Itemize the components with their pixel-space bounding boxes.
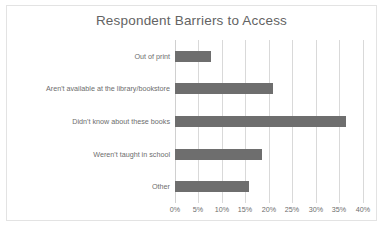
bar xyxy=(175,51,211,62)
tick-label: 10% xyxy=(215,205,229,214)
bar xyxy=(175,181,249,192)
tick-label: 30% xyxy=(309,205,323,214)
category-label: Other xyxy=(152,181,170,192)
category-label: Out of print xyxy=(134,51,170,62)
bar xyxy=(175,83,273,94)
bar xyxy=(175,116,346,127)
category-label: Aren't available at the library/bookstor… xyxy=(46,83,170,94)
tick-label: 25% xyxy=(285,205,299,214)
tick-label: 0% xyxy=(170,205,180,214)
category-axis-labels: Out of printAren't available at the libr… xyxy=(7,40,170,203)
bar xyxy=(175,149,262,160)
tick-label: 20% xyxy=(262,205,276,214)
chart-title: Respondent Barriers to Access xyxy=(7,13,376,28)
tick-label: 5% xyxy=(193,205,203,214)
value-axis-tick-labels: 0%5%10%15%20%25%30%35%40% xyxy=(175,205,377,219)
chart-frame: Respondent Barriers to Access Out of pri… xyxy=(6,5,377,221)
plot-area xyxy=(175,40,377,203)
category-label: Didn't know about these books xyxy=(72,116,170,127)
tick-label: 35% xyxy=(332,205,346,214)
category-label: Weren't taught in school xyxy=(93,149,170,160)
tick-label: 15% xyxy=(238,205,252,214)
bar-series xyxy=(175,40,377,203)
tick-label: 40% xyxy=(356,205,370,214)
